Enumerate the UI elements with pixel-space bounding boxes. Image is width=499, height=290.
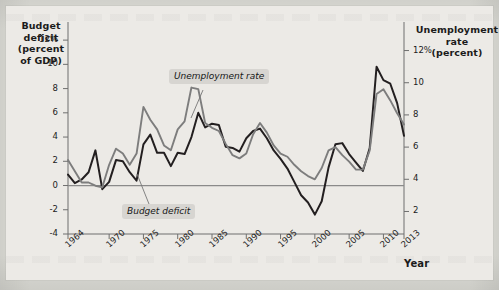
left-axis-tick-label: 10 [28,58,58,68]
right-axis-tick-label: 2 [413,205,445,215]
left-axis-tick-label: 6 [28,107,58,117]
right-axis-tick-label: 8 [413,109,445,119]
left-axis-tick-label: 2 [28,155,58,165]
left-axis-tick-label: 4 [28,131,58,141]
left-axis-tick-label: -2 [28,204,58,214]
right-axis-tick-label: 10 [413,77,445,87]
right-axis-tick-label: 4 [413,173,445,183]
right-axis-tick-label: 6 [413,141,445,151]
annotation-budget-deficit: Budget deficit [122,204,195,219]
left-axis-tick-label: 12% [28,34,58,44]
annotation-unemployment-rate: Unemployment rate [169,69,269,84]
left-axis-tick-label: 8 [28,83,58,93]
figure-panel: Budget deficit (percent of GDP) Unemploy… [6,6,493,280]
right-axis-tick-label: 12% [413,45,445,55]
left-axis-tick-label: -4 [28,228,58,238]
left-axis-tick-label: 0 [28,180,58,190]
